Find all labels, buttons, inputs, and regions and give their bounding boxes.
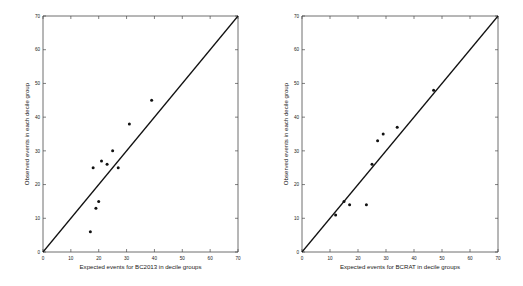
scatter-plot-bcrat: 010203040506070010203040506070Expected e… (262, 0, 523, 286)
y-tick-label: 40 (293, 115, 299, 120)
data-point (150, 99, 153, 102)
data-point (364, 203, 367, 206)
y-tick-label: 70 (35, 14, 41, 19)
data-point (97, 200, 100, 203)
x-tick-label: 40 (411, 256, 417, 261)
data-point (342, 200, 345, 203)
scatter-plot-bc2013: 010203040506070010203040506070Expected e… (0, 0, 262, 286)
figure-two-panel-calibration-plots: 010203040506070010203040506070Expected e… (0, 0, 523, 286)
y-axis-title: Observed events in each decile group (282, 82, 289, 185)
data-point (370, 163, 373, 166)
panel-right-bcrat: 010203040506070010203040506070Expected e… (262, 0, 523, 286)
x-tick-label: 60 (208, 256, 214, 261)
data-point (381, 133, 384, 136)
y-tick-label: 30 (35, 149, 41, 154)
data-point (432, 89, 435, 92)
y-tick-label: 30 (293, 149, 299, 154)
data-point (100, 159, 103, 162)
y-axis-title: Observed events in each decile group (23, 82, 30, 185)
data-point (89, 230, 92, 233)
x-tick-label: 0 (300, 256, 303, 261)
x-axis-ticks: 010203040506070 (300, 16, 500, 261)
y-axis-ticks: 010203040506070 (293, 14, 497, 255)
y-tick-label: 40 (35, 115, 41, 120)
y-tick-label: 50 (293, 81, 299, 86)
x-tick-label: 0 (42, 256, 45, 261)
y-tick-label: 20 (293, 182, 299, 187)
data-point (348, 203, 351, 206)
data-point (92, 166, 95, 169)
y-tick-label: 60 (35, 47, 41, 52)
x-tick-label: 70 (495, 256, 501, 261)
data-point (106, 163, 109, 166)
y-tick-label: 60 (293, 47, 299, 52)
y-tick-label: 50 (35, 81, 41, 86)
x-tick-label: 30 (124, 256, 130, 261)
y-tick-label: 0 (37, 250, 40, 255)
data-point (117, 166, 120, 169)
y-tick-label: 10 (293, 216, 299, 221)
identity-reference-line (302, 16, 498, 252)
x-tick-label: 10 (68, 256, 74, 261)
data-point (94, 207, 97, 210)
x-tick-label: 70 (235, 256, 241, 261)
y-axis-ticks: 010203040506070 (35, 14, 238, 255)
y-tick-label: 0 (296, 250, 299, 255)
x-axis-title: Expected events for BC2013 in decile gro… (80, 263, 202, 270)
data-point (111, 149, 114, 152)
x-tick-label: 10 (327, 256, 333, 261)
x-axis-title: Expected events for BCRAT in decile grou… (339, 263, 459, 270)
x-tick-label: 50 (439, 256, 445, 261)
identity-reference-line (43, 16, 238, 252)
panel-left-bc2013: 010203040506070010203040506070Expected e… (0, 0, 262, 286)
x-tick-label: 60 (467, 256, 473, 261)
x-tick-label: 30 (383, 256, 389, 261)
data-point (334, 213, 337, 216)
y-tick-label: 20 (35, 182, 41, 187)
data-point (128, 122, 131, 125)
data-point (376, 139, 379, 142)
x-tick-label: 20 (355, 256, 361, 261)
x-tick-label: 20 (96, 256, 102, 261)
data-points (89, 99, 153, 233)
y-tick-label: 10 (35, 216, 41, 221)
x-tick-label: 40 (152, 256, 158, 261)
y-tick-label: 70 (293, 14, 299, 19)
x-tick-label: 50 (180, 256, 186, 261)
data-point (395, 126, 398, 129)
x-axis-ticks: 010203040506070 (42, 16, 241, 261)
